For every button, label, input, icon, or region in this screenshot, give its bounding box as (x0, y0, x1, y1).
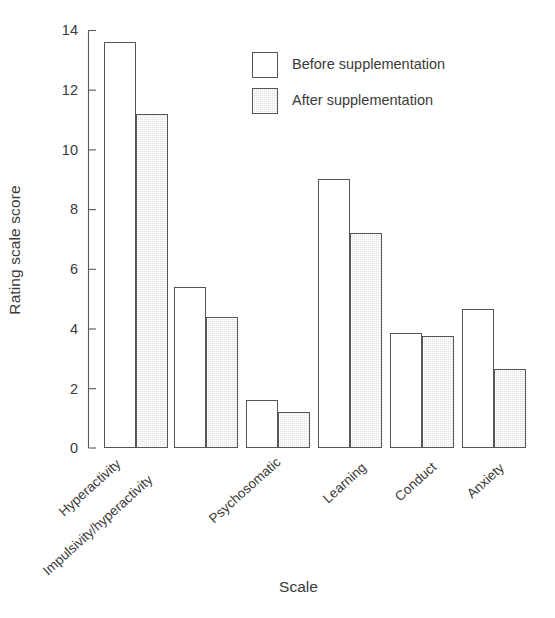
bar-after-psychosomatic (278, 412, 310, 448)
bar-after-impulsivity-hyperactivity (206, 317, 238, 448)
y-axis-title-text: Rating scale score (6, 150, 24, 350)
bar-before-learning (318, 179, 350, 448)
bar-after-learning (350, 233, 382, 448)
legend-swatch-before-icon (252, 52, 278, 78)
y-tick-label-14: 14 (48, 22, 78, 38)
bar-after-anxiety (494, 369, 526, 448)
bar-chart-figure: Rating scale score 14 12 10 8 6 4 2 0 Hy… (0, 0, 555, 618)
y-tick-label-4: 4 (48, 321, 78, 337)
y-tick-label-12: 12 (48, 82, 78, 98)
bar-before-conduct (390, 333, 422, 448)
y-tick-label-0: 0 (48, 440, 78, 456)
legend-swatch-after-icon (252, 88, 278, 114)
y-tick-label-2: 2 (48, 381, 78, 397)
legend-label-before: Before supplementation (292, 56, 445, 72)
bar-before-hyperactivity (104, 42, 136, 448)
y-axis-title: Rating scale score (6, 0, 24, 150)
bar-after-conduct (422, 336, 454, 448)
bar-after-hyperactivity (136, 114, 168, 448)
bar-before-psychosomatic (246, 400, 278, 448)
y-tick-label-6: 6 (48, 261, 78, 277)
bar-before-anxiety (462, 309, 494, 448)
y-tick-label-8: 8 (48, 201, 78, 217)
legend-label-after: After supplementation (292, 92, 433, 108)
x-axis-title-text: Scale (279, 578, 318, 596)
bar-before-impulsivity-hyperactivity (174, 287, 206, 448)
x-axis-title: Scale (0, 578, 555, 596)
y-tick-label-10: 10 (48, 142, 78, 158)
